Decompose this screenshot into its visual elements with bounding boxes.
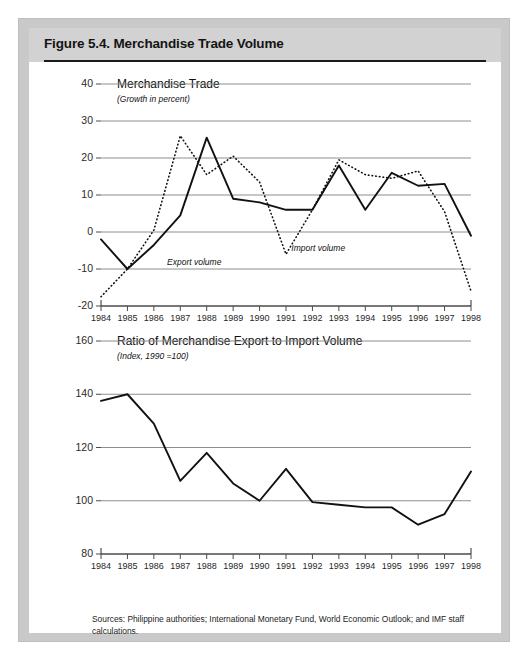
chart-top-svg (101, 84, 471, 306)
y-axis-tick-label: -20 (57, 299, 93, 311)
figure-inner: Figure 5.4. Merchandise Trade Volume Mer… (29, 29, 501, 633)
y-axis-tick-label: 10 (57, 188, 93, 200)
chart-merchandise-trade: Merchandise Trade (Growth in percent) 40… (29, 69, 501, 354)
y-axis-tick-label: 120 (57, 441, 93, 453)
chart-ratio-export-import: Ratio of Merchandise Export to Import Vo… (29, 326, 501, 611)
y-axis-tick-label: 160 (57, 334, 93, 346)
y-axis-tick-label: -10 (57, 262, 93, 274)
chart-bottom-svg (101, 341, 471, 554)
series-line-2 (101, 136, 471, 297)
chart-bottom-plot-area: 1601401201008019841985198619871988198919… (101, 341, 471, 554)
x-axis-tick-label: 1998 (455, 561, 487, 571)
series-line-1 (101, 138, 471, 269)
y-axis-tick-label: 30 (57, 114, 93, 126)
y-axis-tick-label: 0 (57, 225, 93, 237)
y-axis-tick-label: 20 (57, 151, 93, 163)
series-line-1 (101, 394, 471, 524)
x-axis-tick-label: 1998 (455, 313, 487, 323)
y-axis-tick-label: 80 (57, 547, 93, 559)
figure-frame: Figure 5.4. Merchandise Trade Volume Mer… (18, 18, 510, 642)
source-note: Sources: Philippine authorities; Interna… (92, 613, 484, 637)
series-annotation: Import volume (291, 243, 345, 253)
series-annotation: Export volume (167, 257, 221, 267)
y-axis-tick-label: 140 (57, 387, 93, 399)
chart-top-plot-area: 403020100-10-201984198519861987198819891… (101, 84, 471, 306)
title-rule (44, 60, 486, 62)
figure-title: Figure 5.4. Merchandise Trade Volume (44, 36, 284, 51)
y-axis-tick-label: 100 (57, 494, 93, 506)
y-axis-tick-label: 40 (57, 77, 93, 89)
